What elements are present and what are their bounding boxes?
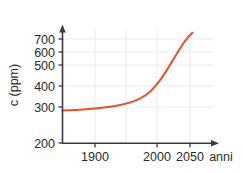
x-axis bbox=[63, 140, 220, 148]
y-tick-label-600: 600 bbox=[34, 46, 55, 60]
x-tick-label-2000: 2000 bbox=[143, 150, 171, 164]
y-tick-label-700: 700 bbox=[34, 33, 55, 47]
y-tick-label-200: 200 bbox=[34, 137, 55, 151]
grid-lines bbox=[63, 30, 213, 143]
y-axis bbox=[59, 25, 66, 145]
y-axis-arrow-icon bbox=[59, 25, 65, 33]
line-chart: 700 600 500 400 300 200 1900 2000 2050 c… bbox=[0, 0, 243, 173]
co2-concentration-curve bbox=[63, 33, 193, 111]
x-axis-title: anni bbox=[209, 150, 233, 164]
chart-container: 700 600 500 400 300 200 1900 2000 2050 c… bbox=[0, 0, 243, 173]
x-tick-label-2050: 2050 bbox=[176, 150, 204, 164]
x-tick-label-1900: 1900 bbox=[81, 150, 109, 164]
y-axis-title: c (ppm) bbox=[7, 64, 21, 106]
x-axis-arrow-icon bbox=[211, 140, 219, 146]
x-tick-labels: 1900 2000 2050 bbox=[81, 150, 204, 164]
y-tick-labels: 700 600 500 400 300 200 bbox=[34, 33, 55, 151]
y-tick-label-500: 500 bbox=[34, 59, 55, 73]
y-tick-label-300: 300 bbox=[34, 101, 55, 115]
y-tick-label-400: 400 bbox=[34, 80, 55, 94]
